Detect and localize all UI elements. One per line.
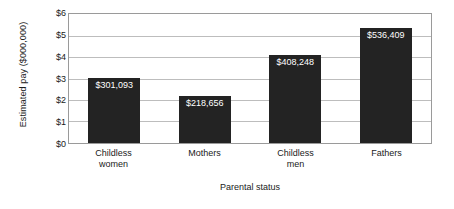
bar-group-mothers: $218,656 <box>179 14 231 143</box>
y-axis-title-line-1: Estimated pay <box>19 68 29 126</box>
bar-value-label-mothers: $218,656 <box>179 98 231 109</box>
x-tick-label-mothers-line-1: Mothers <box>165 148 245 159</box>
y-tick-label-5: $5 <box>56 30 66 40</box>
y-axis-tick-labels: $0 $1 $2 $3 $4 $5 $6 <box>40 13 66 144</box>
x-tick-label-mothers: Mothers <box>165 148 245 159</box>
bar-childless-men[interactable]: $408,248 <box>269 55 321 143</box>
bar-fathers[interactable]: $536,409 <box>360 28 412 143</box>
x-tick-label-childless-women-line-2: women <box>74 159 154 170</box>
y-tick-label-4: $4 <box>56 52 66 62</box>
y-tick-label-1: $1 <box>56 117 66 127</box>
x-tick-label-childless-men-line-2: men <box>256 159 336 170</box>
bar-chart-figure: Estimated pay ($000,000) $0 $1 $2 $3 $4 … <box>0 0 454 209</box>
y-tick-label-0: $0 <box>56 139 66 149</box>
bars-layer: $301,093 $218,656 $408,248 $536,409 <box>69 14 431 143</box>
x-axis-tick-labels: Childless women Mothers Childless men Fa… <box>68 148 432 176</box>
bar-value-label-fathers: $536,409 <box>360 30 412 41</box>
bar-group-childless-women: $301,093 <box>88 14 140 143</box>
x-tick-label-childless-women-line-1: Childless <box>74 148 154 159</box>
bar-childless-women[interactable]: $301,093 <box>88 78 140 143</box>
x-tick-label-fathers-line-1: Fathers <box>347 148 427 159</box>
x-axis-title: Parental status <box>68 182 432 193</box>
bar-group-fathers: $536,409 <box>360 14 412 143</box>
y-tick-label-3: $3 <box>56 74 66 84</box>
x-tick-label-childless-men-line-1: Childless <box>256 148 336 159</box>
y-tick-label-6: $6 <box>56 8 66 18</box>
bar-value-label-childless-women: $301,093 <box>88 80 140 91</box>
bar-group-childless-men: $408,248 <box>269 14 321 143</box>
y-axis-title-line-2: ($000,000) <box>19 21 29 66</box>
y-tick-label-2: $2 <box>56 95 66 105</box>
bar-mothers[interactable]: $218,656 <box>179 96 231 143</box>
x-tick-label-childless-men: Childless men <box>256 148 336 170</box>
x-tick-label-fathers: Fathers <box>347 148 427 159</box>
bar-value-label-childless-men: $408,248 <box>269 57 321 68</box>
x-tick-label-childless-women: Childless women <box>74 148 154 170</box>
plot-area: $301,093 $218,656 $408,248 $536,409 <box>68 13 432 144</box>
y-axis-title: Estimated pay ($000,000) <box>6 0 42 148</box>
